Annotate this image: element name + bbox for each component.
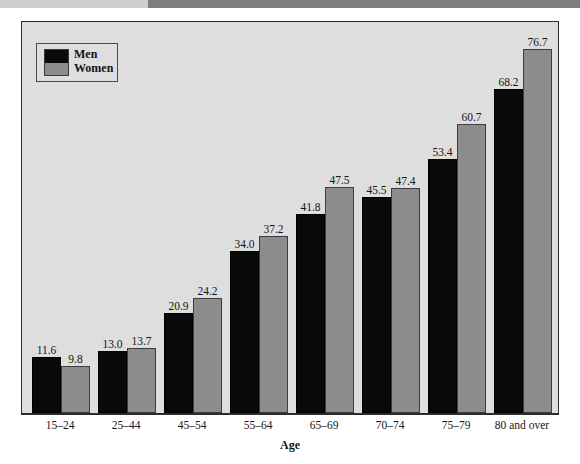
bar-women: 13.7: [127, 348, 156, 413]
bar-men: 53.4: [428, 159, 457, 412]
bar-value-label-men: 68.2: [498, 76, 518, 88]
bar-women: 76.7: [523, 49, 552, 413]
legend-swatch-stack: [44, 49, 69, 76]
bar-value-label-women: 24.2: [197, 285, 217, 297]
bar-men: 45.5: [362, 197, 391, 413]
bar-women: 60.7: [457, 124, 486, 412]
x-axis-baseline: [22, 413, 558, 415]
bar-value-label-men: 34.0: [234, 238, 254, 250]
bar-value-label-men: 20.9: [168, 300, 188, 312]
bar-value-label-women: 37.2: [263, 223, 283, 235]
legend-label-group: Men Women: [74, 47, 113, 75]
bar-men: 11.6: [32, 357, 61, 412]
bar-value-label-men: 13.0: [102, 338, 122, 350]
bar-value-label-women: 47.5: [329, 174, 349, 186]
bar-women: 37.2: [259, 236, 288, 413]
bar-value-label-women: 76.7: [527, 36, 547, 48]
scan-band-left-segment: [0, 0, 148, 8]
legend-swatch-women: [45, 63, 68, 76]
bar-men: 41.8: [296, 214, 325, 412]
scan-artifact-band: [0, 0, 580, 8]
bar-value-label-women: 47.4: [395, 175, 415, 187]
bar-men: 34.0: [230, 251, 259, 412]
bar-women: 24.2: [193, 298, 222, 413]
bar-women: 47.4: [391, 188, 420, 413]
bar-value-label-men: 45.5: [366, 184, 386, 196]
bar-women: 9.8: [61, 366, 90, 413]
bar-value-label-women: 9.8: [68, 353, 82, 365]
legend-label-women: Women: [74, 61, 113, 75]
bar-men: 13.0: [98, 351, 127, 413]
bar-value-label-men: 11.6: [37, 344, 57, 356]
x-axis-category-label: 80 and over: [472, 419, 572, 431]
plot-area: Men Women 11.69.813.013.720.924.234.037.…: [22, 22, 558, 414]
chart-legend: Men Women: [36, 43, 118, 82]
legend-label-men: Men: [74, 47, 113, 61]
chart-frame: Men Women 11.69.813.013.720.924.234.037.…: [21, 21, 559, 415]
bar-value-label-women: 60.7: [461, 111, 481, 123]
bar-women: 47.5: [325, 187, 354, 412]
legend-swatch-men: [45, 50, 68, 63]
x-axis-title: Age: [0, 438, 580, 453]
bar-men: 20.9: [164, 313, 193, 412]
scan-band-right-segment: [148, 0, 580, 8]
bar-value-label-women: 13.7: [131, 335, 151, 347]
bar-value-label-men: 53.4: [432, 146, 452, 158]
bar-value-label-men: 41.8: [300, 201, 320, 213]
bar-men: 68.2: [494, 89, 523, 413]
